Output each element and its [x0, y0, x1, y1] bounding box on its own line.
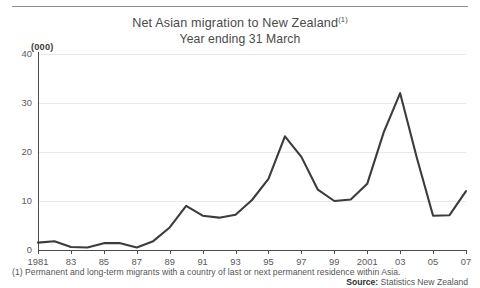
x-axis-tick-mark: [466, 250, 467, 254]
gridline: [38, 152, 466, 153]
x-axis-line: [38, 250, 466, 251]
source-value: Statistics New Zealand: [381, 277, 468, 287]
x-axis-tick-label: 93: [230, 256, 240, 267]
x-axis-tick-label: 95: [263, 256, 273, 267]
x-axis-tick-label: 89: [164, 256, 174, 267]
plot-area: [38, 54, 466, 250]
gridline: [38, 54, 466, 55]
x-axis-tick-label: 03: [395, 256, 405, 267]
chart-footnote: (1) Permanent and long-term migrants wit…: [12, 267, 472, 277]
x-axis-tick-label: 07: [461, 256, 471, 267]
chart-subtitle: Year ending 31 March: [0, 32, 480, 47]
x-axis-tick-label: 91: [197, 256, 207, 267]
x-axis-tick-label: 1981: [28, 256, 49, 267]
header-divider: [12, 6, 468, 7]
y-axis-tick-label: 30: [6, 98, 32, 108]
y-axis-line: [38, 52, 39, 252]
chart-title-text: Net Asian migration to New Zealand: [132, 16, 338, 30]
chart-source: Source: Statistics New Zealand: [346, 277, 468, 287]
x-axis-tick-label: 2001: [357, 256, 378, 267]
chart-page: Net Asian migration to New Zealand(1) Ye…: [0, 0, 480, 288]
source-label: Source:: [346, 277, 378, 287]
y-axis-unit-label: (000): [31, 42, 53, 52]
chart-title-footnote-marker: (1): [338, 15, 348, 24]
x-axis-tick-label: 05: [428, 256, 438, 267]
x-axis-tick-label: 99: [329, 256, 339, 267]
x-axis-tick-label: 85: [99, 256, 109, 267]
y-axis-tick-label: 10: [6, 196, 32, 206]
y-axis-tick-label: 40: [6, 49, 32, 59]
gridline: [38, 103, 466, 104]
y-axis-tick-label: 0: [6, 245, 32, 255]
x-axis-tick-label: 87: [132, 256, 142, 267]
x-axis-tick-label: 83: [66, 256, 76, 267]
chart-title-block: Net Asian migration to New Zealand(1) Ye…: [0, 12, 480, 47]
gridline: [38, 201, 466, 202]
chart-title: Net Asian migration to New Zealand(1): [0, 12, 480, 31]
cut-off-header-text: [12, 0, 312, 4]
y-axis-tick-label: 20: [6, 147, 32, 157]
x-axis-tick-label: 97: [296, 256, 306, 267]
